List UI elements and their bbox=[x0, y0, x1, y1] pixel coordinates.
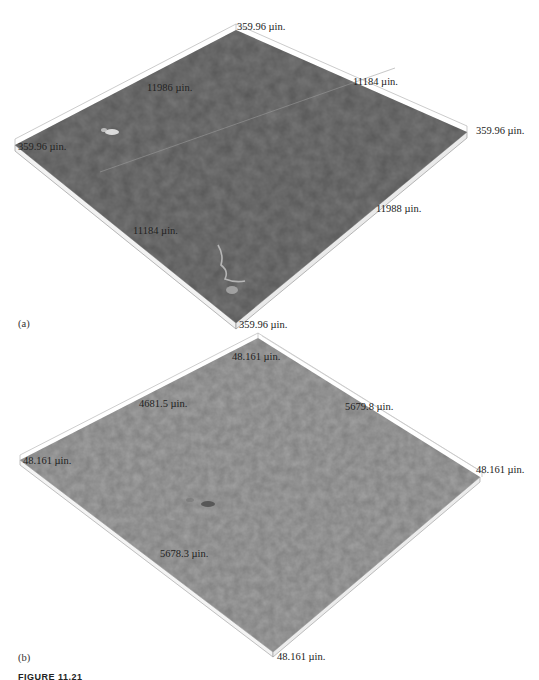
panel-b-right-height-label: 48.161 µin. bbox=[476, 465, 524, 476]
panel-a-back-right-length-label: 11184 µin. bbox=[353, 77, 398, 88]
panel-a-label: (a) bbox=[18, 318, 30, 329]
panel-a-back-left-length-label: 11986 µin. bbox=[147, 83, 192, 94]
panel-b-label: (b) bbox=[18, 652, 30, 663]
panel-b-left-height-label: 48.161 µin. bbox=[23, 456, 71, 467]
panel-a-front-right-length-label: 11988 µin. bbox=[376, 204, 421, 215]
panel-a-surface bbox=[15, 24, 467, 329]
panel-b-front-left-length-label: 5678.3 µin. bbox=[160, 549, 208, 560]
panel-b-surface bbox=[20, 333, 485, 657]
panel-b-top-height-label: 48.161 µin. bbox=[232, 352, 280, 363]
panel-b-bottom-height-label: 48.161 µin. bbox=[277, 652, 325, 663]
panel-b-back-left-length-label: 4681.5 µin. bbox=[139, 399, 187, 410]
panel-a-right-height-label: 359.96 µin. bbox=[476, 126, 524, 137]
panel-a-front-left-length-label: 11184 µin. bbox=[133, 226, 178, 237]
figure: 359.96 µin. 11986 µin. 11184 µin. 359.96… bbox=[0, 0, 539, 680]
panel-a-left-height-label: 359.96 µin. bbox=[18, 142, 66, 153]
figure-caption: FIGURE 11.21 bbox=[18, 672, 83, 680]
panel-a-top-height-label: 359.96 µin. bbox=[237, 22, 285, 33]
panel-a-bottom-height-label: 359.96 µin. bbox=[239, 320, 287, 331]
surface-plots-graphic bbox=[0, 0, 539, 680]
panel-b-back-right-length-label: 5679.8 µin. bbox=[345, 402, 393, 413]
